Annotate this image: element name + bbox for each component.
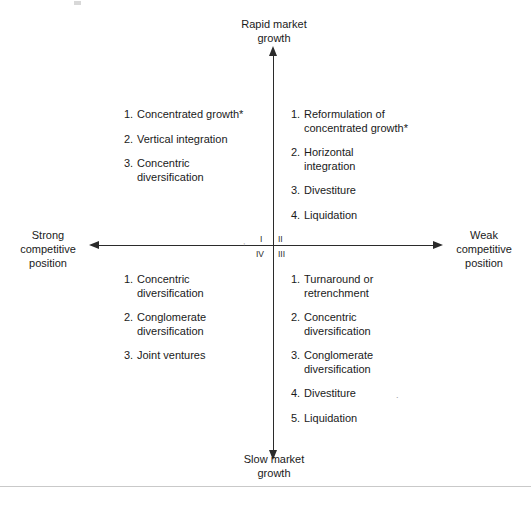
strategy-item: 1.Concentrated growth*: [124, 108, 274, 122]
strategy-item: 2.Horizontal integration: [291, 146, 439, 173]
strategy-item-number: 3.: [124, 349, 137, 363]
strategy-item: 2.Conglomerate diversification: [124, 311, 274, 338]
strategy-item-label: Liquidation: [304, 412, 357, 426]
axis-label-rapid-market-growth: Rapid market growth: [214, 17, 334, 45]
quadrant-numeral-iv: IV: [256, 249, 264, 259]
strategy-item: 2.Vertical integration: [124, 133, 274, 147]
strategy-item: 1.Turnaround or retrenchment: [291, 273, 441, 300]
strategy-item-label: Conglomerate diversification: [304, 349, 373, 376]
axis-label-strong-competitive-position: Strong competitive position: [10, 228, 86, 270]
strategy-item-number: 1.: [124, 273, 137, 300]
strategy-item-label: Concentrated growth*: [137, 108, 243, 122]
strategy-item: 1.Reformulation of concentrated growth*: [291, 108, 439, 135]
strategy-item-label: Concentric diversification: [304, 311, 371, 338]
strategy-item-label: Turnaround or retrenchment: [304, 273, 373, 300]
strategy-item-number: 4.: [291, 387, 304, 401]
strategy-item-number: 3.: [124, 157, 137, 184]
strategy-item-number: 2.: [124, 311, 137, 338]
quadrant-numeral-i: I: [260, 234, 262, 244]
scan-artifact-center: ,: [243, 236, 246, 246]
strategy-item-label: Horizontal integration: [304, 146, 355, 173]
strategy-item-number: 1.: [291, 108, 304, 135]
axis-label-weak-competitive-position: Weak competitive position: [444, 228, 524, 270]
strategy-item-label: Reformulation of concentrated growth*: [304, 108, 408, 135]
strategy-item-label: Joint ventures: [137, 349, 205, 363]
strategy-item-label: Liquidation: [304, 209, 357, 223]
bottom-divider: [0, 486, 531, 487]
strategy-item-label: Vertical integration: [137, 133, 228, 147]
strategy-item-label: Concentric diversification: [137, 157, 204, 184]
strategy-item: 3.Divestiture: [291, 184, 439, 198]
strategy-item-number: 2.: [124, 133, 137, 147]
strategy-item: 5.Liquidation: [291, 412, 441, 426]
strategy-item-number: 3.: [291, 184, 304, 198]
scan-artifact-top: [74, 1, 81, 5]
scan-artifact-divestiture: .: [396, 390, 399, 400]
strategy-item: 3.Joint ventures: [124, 349, 274, 363]
horizontal-axis-line: [98, 245, 434, 246]
grand-strategy-matrix-figure: Rapid market growth Slow market growth S…: [0, 0, 531, 505]
arrow-right-icon: [433, 241, 443, 249]
arrow-up-icon: [269, 46, 277, 56]
strategy-item-number: 4.: [291, 209, 304, 223]
strategy-item-number: 1.: [291, 273, 304, 300]
strategy-item-number: 3.: [291, 349, 304, 376]
strategy-item: 3.Concentric diversification: [124, 157, 274, 184]
strategy-item: 2.Concentric diversification: [291, 311, 441, 338]
strategy-item: 3.Conglomerate diversification: [291, 349, 441, 376]
quadrant-numeral-iii: III: [278, 249, 285, 259]
strategy-item-label: Conglomerate diversification: [137, 311, 206, 338]
strategy-item-number: 2.: [291, 311, 304, 338]
quadrant-4-strategy-list: 1.Concentric diversification2.Conglomera…: [124, 273, 274, 363]
axis-label-slow-market-growth: Slow market growth: [214, 452, 334, 480]
quadrant-3-strategy-list: 1.Turnaround or retrenchment2.Concentric…: [291, 273, 441, 425]
strategy-item-number: 5.: [291, 412, 304, 426]
arrow-left-icon: [89, 241, 99, 249]
strategy-item-number: 2.: [291, 146, 304, 173]
strategy-item-label: Concentric diversification: [137, 273, 204, 300]
strategy-item-number: 1.: [124, 108, 137, 122]
quadrant-2-strategy-list: 1.Reformulation of concentrated growth*2…: [291, 108, 439, 222]
strategy-item: 4.Divestiture: [291, 387, 441, 401]
quadrant-numeral-ii: II: [278, 234, 283, 244]
strategy-item: 4.Liquidation: [291, 209, 439, 223]
strategy-item-label: Divestiture: [304, 387, 356, 401]
quadrant-1-strategy-list: 1.Concentrated growth*2.Vertical integra…: [124, 108, 274, 184]
strategy-item-label: Divestiture: [304, 184, 356, 198]
strategy-item: 1.Concentric diversification: [124, 273, 274, 300]
